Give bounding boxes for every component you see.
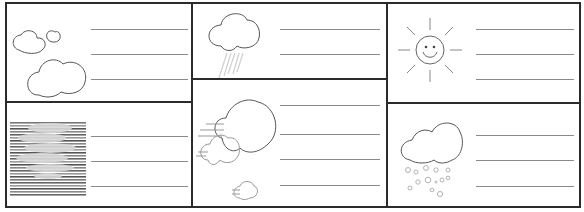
windy-clouds-icon bbox=[196, 96, 286, 206]
smiling-sun-icon bbox=[394, 14, 466, 86]
cell-hail bbox=[386, 102, 581, 208]
cell-fog bbox=[5, 101, 194, 208]
cell-sunny bbox=[386, 2, 581, 105]
write-line bbox=[91, 54, 188, 55]
write-line bbox=[476, 160, 574, 161]
cell-windy bbox=[191, 78, 388, 208]
write-line bbox=[91, 186, 188, 187]
cell-partly-cloudy bbox=[5, 2, 194, 104]
write-line bbox=[476, 54, 574, 55]
write-line bbox=[280, 29, 380, 30]
cell-rain bbox=[191, 2, 388, 81]
write-line bbox=[91, 79, 188, 80]
write-line bbox=[476, 135, 574, 136]
write-line bbox=[476, 79, 574, 80]
weather-worksheet bbox=[0, 0, 584, 212]
hail-cloud-icon bbox=[396, 118, 466, 198]
write-line bbox=[476, 186, 574, 187]
clouds-icon bbox=[11, 28, 91, 98]
write-line bbox=[280, 105, 380, 106]
fog-icon bbox=[10, 122, 86, 198]
write-line bbox=[280, 134, 380, 135]
write-line bbox=[280, 159, 380, 160]
rain-cloud-icon bbox=[203, 8, 273, 80]
write-line bbox=[476, 29, 574, 30]
write-line bbox=[91, 161, 188, 162]
write-line bbox=[280, 54, 380, 55]
write-line bbox=[91, 136, 188, 137]
write-line bbox=[91, 29, 188, 30]
write-line bbox=[280, 185, 380, 186]
